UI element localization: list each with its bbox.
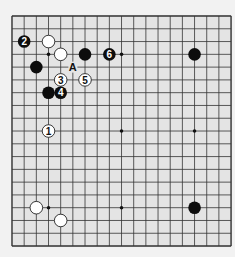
black-stone[interactable] (42, 86, 55, 99)
white-stone[interactable]: 1 (42, 125, 55, 138)
star-point (120, 53, 124, 57)
black-stone[interactable] (188, 48, 201, 61)
black-stone[interactable] (79, 48, 92, 61)
star-point (120, 206, 124, 210)
move-number: 3 (58, 75, 64, 86)
white-stone[interactable] (54, 48, 67, 61)
black-stone[interactable] (30, 61, 43, 74)
point-label-marker[interactable]: A (69, 61, 77, 73)
move-number: 4 (58, 87, 64, 98)
white-stone[interactable] (30, 201, 43, 214)
star-point (120, 129, 124, 133)
move-number: 1 (46, 126, 52, 137)
move-number: 2 (21, 36, 27, 47)
white-stone[interactable]: 5 (79, 74, 92, 87)
move-number: 6 (107, 49, 113, 60)
black-stone[interactable]: 6 (103, 48, 116, 61)
move-number: 5 (82, 75, 88, 86)
star-point (47, 206, 51, 210)
white-stone[interactable]: 3 (54, 74, 67, 87)
board-svg: 263541A (0, 0, 235, 257)
star-point (47, 53, 51, 57)
white-stone[interactable] (54, 214, 67, 227)
white-stone[interactable] (42, 35, 55, 48)
star-point (193, 129, 197, 133)
black-stone[interactable] (188, 201, 201, 214)
go-board[interactable]: 263541A (0, 0, 235, 257)
black-stone[interactable]: 4 (54, 86, 67, 99)
black-stone[interactable]: 2 (18, 35, 31, 48)
